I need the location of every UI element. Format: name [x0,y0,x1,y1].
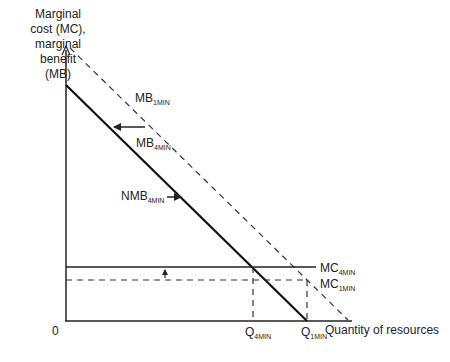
x-axis-label: Quantity of resources [325,323,439,337]
axes [62,46,352,321]
mc-4min-label: MC4MIN [320,261,355,276]
nmb-4min-label: NMB4MIN [121,189,164,204]
mb-4min-label: MB4MIN [136,136,171,151]
mb-4min-curve [66,85,307,321]
diagram-canvas: MB1MIN MB4MIN NMB4MIN MC4MIN MC1MIN Q4MI… [0,0,450,362]
q-4min-label: Q4MIN [245,325,271,340]
mb-1min-curve [70,48,348,320]
mb-1min-label: MB1MIN [135,91,170,106]
origin-label: 0 [52,324,59,338]
mc-1min-label: MC1MIN [320,277,355,292]
q-1min-label: Q1MIN [301,325,327,340]
